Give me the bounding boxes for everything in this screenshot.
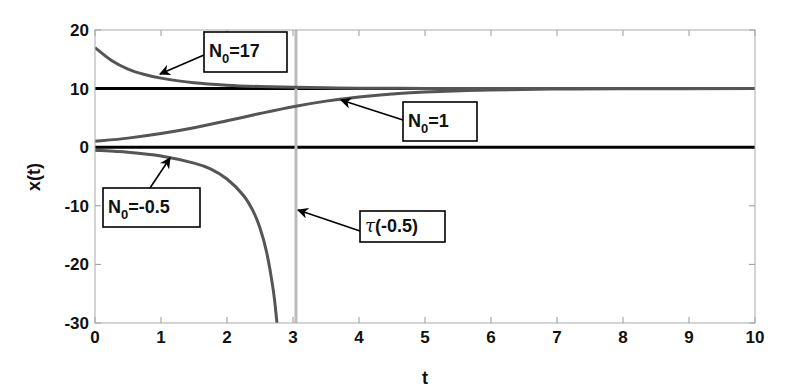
y-tick-label: -10 — [64, 197, 89, 216]
x-tick-label: 6 — [486, 328, 495, 347]
plot-area — [95, 30, 755, 323]
x-tick-label: 7 — [552, 328, 561, 347]
annotation-label: τ(-0.5) — [365, 215, 418, 236]
x-tick-label: 5 — [420, 328, 429, 347]
x-tick-label: 2 — [222, 328, 231, 347]
x-tick-label: 9 — [684, 328, 693, 347]
x-tick-label: 1 — [156, 328, 165, 347]
y-axis-label: x(t) — [24, 163, 44, 191]
y-tick-label: 20 — [70, 21, 89, 40]
y-tick-label: 0 — [80, 138, 89, 157]
x-tick-labels: 012345678910 — [90, 328, 764, 347]
y-tick-label: -30 — [64, 314, 89, 333]
line-chart: 012345678910 -30-20-1001020 t x(t) N0=17… — [0, 0, 800, 392]
x-tick-label: 3 — [288, 328, 297, 347]
x-tick-label: 4 — [354, 328, 364, 347]
x-tick-label: 10 — [746, 328, 765, 347]
x-axis-label: t — [422, 368, 428, 388]
x-tick-label: 8 — [618, 328, 627, 347]
y-tick-label: -20 — [64, 255, 89, 274]
x-tick-label: 0 — [90, 328, 99, 347]
y-tick-label: 10 — [70, 80, 89, 99]
y-tick-labels: -30-20-1001020 — [64, 21, 89, 333]
